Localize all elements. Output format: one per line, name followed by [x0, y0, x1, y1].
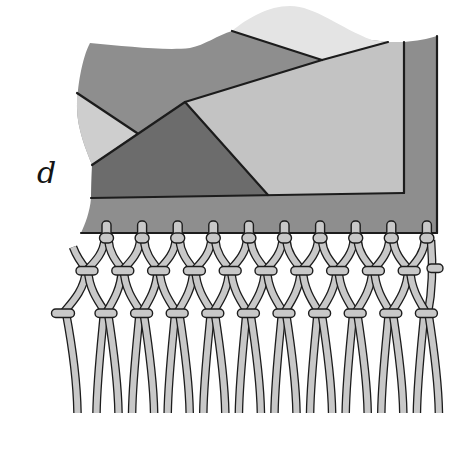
fringe-cord-upper	[393, 240, 409, 270]
peg-knot	[313, 233, 327, 243]
bottom-knot	[166, 309, 188, 318]
bottom-knot	[131, 309, 153, 318]
fringe-cord-upper	[159, 240, 176, 270]
fringe-cord-end	[132, 313, 140, 413]
fringe-cord-end	[179, 313, 190, 413]
fringe-cord-end	[417, 313, 425, 413]
bottom-knot	[95, 309, 117, 318]
fringe-cord-middle	[248, 270, 265, 313]
middle-knot	[362, 267, 384, 276]
fringe-cord-end	[168, 313, 176, 413]
bottom-knot	[309, 309, 331, 318]
fringe-cord-middle	[63, 270, 86, 313]
illustration: d	[0, 0, 475, 451]
bottom-knot	[344, 309, 366, 318]
fringe-cord-end	[381, 313, 389, 413]
fringe-cord-middle	[160, 270, 178, 313]
fringe-cord-middle	[106, 270, 122, 313]
fringe-cord-middle	[142, 270, 158, 313]
cord-body	[286, 313, 297, 413]
fringe-cord-upper	[338, 240, 354, 270]
fringe-cord-upper	[230, 240, 247, 270]
fringe-cord-middle	[213, 270, 229, 313]
bottom-knot	[52, 309, 75, 318]
fringe-cord-middle	[284, 270, 301, 313]
fabric	[77, 6, 437, 233]
fringe-cord-middle	[320, 270, 337, 313]
fringe-cord-upper	[109, 240, 123, 270]
peg-knot	[100, 233, 114, 243]
middle-knot	[398, 267, 420, 276]
peg-knot	[278, 233, 292, 243]
fringe-cord-end	[357, 313, 368, 413]
peg-knot	[384, 233, 398, 243]
fringe-cord-end	[393, 313, 404, 413]
fringe-cord-middle	[177, 270, 193, 313]
fringe-cord-end	[144, 313, 155, 413]
cord-body	[215, 313, 226, 413]
fringe-cord-end	[275, 313, 283, 413]
cord-body	[144, 313, 155, 413]
fringe-cord-middle	[231, 270, 248, 313]
fringe-cord-end	[310, 313, 318, 413]
fringe-cord-middle	[267, 270, 284, 313]
fringe-cord-end	[286, 313, 297, 413]
bottom-knot	[237, 309, 259, 318]
fringe-cord-end	[428, 313, 439, 413]
cord-body	[357, 313, 368, 413]
middle-knot	[255, 267, 277, 276]
fringe-cord-end	[250, 313, 261, 413]
fringe-cord-end	[215, 313, 226, 413]
fringe-cord-end	[66, 313, 78, 413]
knotted-fringe	[52, 221, 444, 413]
cord-body	[250, 313, 261, 413]
peg-knot	[206, 233, 220, 243]
fringe-cord-middle	[339, 270, 356, 313]
fringe-cord-middle	[374, 270, 390, 313]
fringe-cord-middle	[410, 270, 426, 313]
fringe-cord-upper	[123, 240, 140, 270]
fringe-cord-upper	[373, 240, 389, 270]
cord-body	[322, 313, 333, 413]
peg-knot	[171, 233, 185, 243]
middle-knot	[291, 267, 313, 276]
cord-body	[109, 240, 123, 270]
fringe-cord-upper	[144, 240, 159, 270]
fringe-cord-upper	[287, 240, 302, 270]
middle-knot	[327, 267, 349, 276]
fringe-cord-end	[97, 313, 105, 413]
cord-body	[393, 313, 404, 413]
bottom-knot	[273, 309, 295, 318]
fringe-cord-upper	[87, 240, 105, 270]
fringe-cord-middle	[355, 270, 372, 313]
edge-knot	[427, 264, 443, 273]
fringe-cord-upper	[180, 240, 195, 270]
fringe-cord-upper	[302, 240, 318, 270]
fringe-cord-upper	[358, 240, 374, 270]
fringe-cord-middle	[303, 270, 320, 313]
fringe-cord-upper	[251, 240, 266, 270]
fringe-cord-upper	[322, 240, 338, 270]
fringe-cord-end	[322, 313, 333, 413]
bottom-knot	[415, 309, 437, 318]
fringe-cord-middle	[391, 270, 408, 313]
step-label: d	[37, 155, 56, 190]
fringe-cord-middle	[124, 270, 142, 313]
middle-knot	[76, 267, 98, 276]
fringe-cord-upper	[194, 240, 211, 270]
peg-knot	[420, 233, 434, 243]
cord-body	[108, 313, 119, 413]
middle-knot	[219, 267, 241, 276]
fringe-cord-end	[108, 313, 119, 413]
cord-body	[179, 313, 190, 413]
fringe-cord-right-edge	[428, 240, 432, 313]
bottom-knot	[380, 309, 402, 318]
fringe-cord-end	[346, 313, 354, 413]
fringe-cord-middle	[88, 270, 106, 313]
middle-knot	[148, 267, 170, 276]
bottom-knot	[202, 309, 224, 318]
fringe-cord-end	[239, 313, 247, 413]
fringe-cord-upper	[266, 240, 283, 270]
peg-knot	[242, 233, 256, 243]
fringe-cord-middle	[195, 270, 212, 313]
